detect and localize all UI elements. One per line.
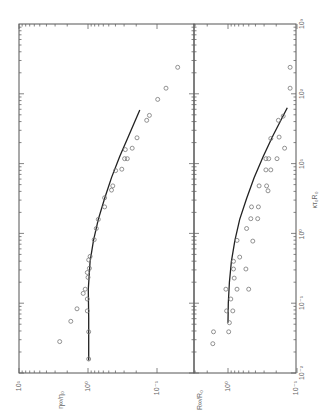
data-point [276, 118, 280, 122]
data-point [235, 238, 239, 242]
top-y-tick-label: 10⁰ [84, 381, 91, 392]
data-point [75, 307, 79, 311]
data-point [123, 157, 127, 161]
data-point [277, 135, 281, 139]
data-point [265, 184, 269, 188]
data-point [135, 136, 139, 140]
data-point [257, 184, 261, 188]
bottom-y-tick-label: 10⁰ [224, 381, 231, 392]
data-point [283, 146, 287, 150]
rotated-log-log-figure: 10³ 10² 10¹ 10⁰ 10⁻¹ 10⁻² κτ₀R₀ 10¹ 10⁰ … [0, 0, 336, 419]
data-point [250, 205, 254, 209]
data-point [244, 267, 248, 271]
data-point [147, 113, 151, 117]
data-point [111, 184, 115, 188]
axis-ticks [19, 24, 297, 373]
top-y-tick-label: 10¹ [15, 380, 22, 391]
data-point [110, 188, 114, 192]
data-point [229, 297, 233, 301]
bottom-y-axis-title: R∞/R₀ [196, 390, 203, 410]
data-point [164, 86, 168, 90]
data-point [81, 291, 85, 295]
data-point [264, 157, 268, 161]
data-point [231, 309, 235, 313]
data-point [176, 65, 180, 69]
data-point [288, 65, 292, 69]
top-y-tick-label: 10⁻¹ [153, 380, 160, 395]
data-point [130, 146, 134, 150]
data-point [232, 276, 236, 280]
bottom-panel-frame [194, 24, 296, 373]
axis-labels: 10³ 10² 10¹ 10⁰ 10⁻¹ 10⁻² κτ₀R₀ 10¹ 10⁰ … [15, 18, 318, 410]
bottom-y-tick-label: 10⁻¹ [292, 380, 299, 395]
data-point [266, 189, 270, 193]
data-point [232, 267, 236, 271]
data-point [247, 287, 251, 291]
x-tick-label: 10¹ [298, 158, 305, 169]
fit-curve [228, 108, 287, 323]
data-point [212, 330, 216, 334]
plot-frames [19, 24, 296, 373]
x-tick-label: 10⁻¹ [298, 295, 305, 310]
data-point [275, 157, 279, 161]
x-tick-label: 10⁻² [298, 365, 305, 380]
data-point [83, 287, 87, 291]
data-point [224, 287, 228, 291]
data-point [85, 271, 89, 275]
data-point [256, 217, 260, 221]
data-point [227, 330, 231, 334]
data-point [156, 97, 160, 101]
data-point [249, 217, 253, 221]
data-points [58, 65, 292, 361]
data-point [232, 259, 236, 263]
fit-curves [88, 108, 287, 361]
data-point [288, 86, 292, 90]
data-point [211, 342, 215, 346]
data-point [103, 205, 107, 209]
x-tick-label: 10² [298, 88, 305, 99]
data-point [256, 205, 260, 209]
data-point [238, 255, 242, 259]
data-point [264, 168, 268, 172]
fit-curve [88, 110, 140, 361]
x-axis-title: κτ₀R₀ [311, 191, 318, 208]
data-point [269, 168, 273, 172]
data-point [235, 287, 239, 291]
data-point [69, 319, 73, 323]
data-point [245, 227, 249, 231]
top-y-axis-title: η∞/η₀ [57, 391, 65, 409]
data-point [145, 118, 149, 122]
data-point [251, 239, 255, 243]
x-tick-label: 10³ [298, 18, 305, 29]
data-point [120, 167, 124, 171]
data-point [123, 148, 127, 152]
data-point [58, 340, 62, 344]
x-tick-label: 10⁰ [298, 229, 305, 240]
